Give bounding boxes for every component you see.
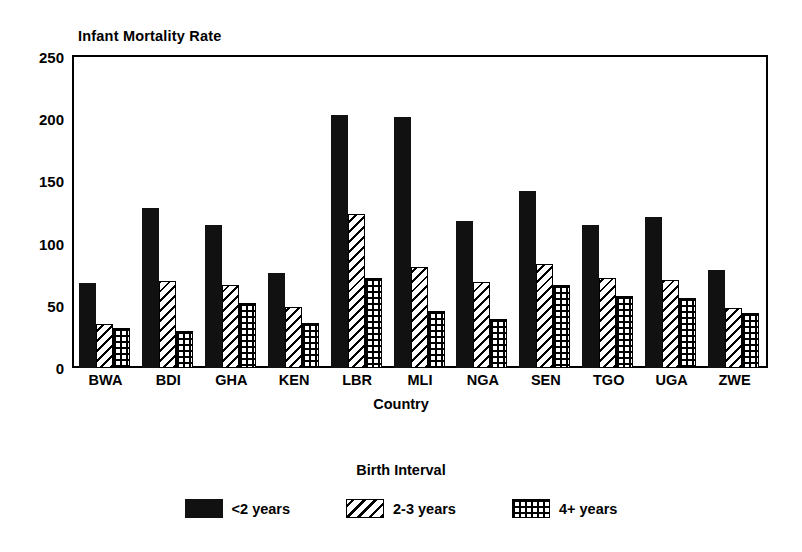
legend-title: Birth Interval <box>0 462 802 478</box>
bar <box>708 270 725 368</box>
bars-layer <box>74 57 766 368</box>
x-axis-tick-label: KEN <box>279 372 310 388</box>
bar <box>679 298 696 368</box>
legend-item-2-3-years[interactable]: 2-3 years <box>346 499 456 518</box>
bar <box>79 283 96 368</box>
bar-group <box>519 57 576 368</box>
bar <box>428 311 445 368</box>
legend-item-label: <2 years <box>232 501 290 517</box>
x-axis-label: Country <box>0 396 802 412</box>
bar <box>411 267 428 368</box>
bar-group <box>394 57 451 368</box>
x-axis-tick-label: NGA <box>467 372 499 388</box>
bar <box>725 308 742 368</box>
y-axis-tick-label: 250 <box>39 49 64 66</box>
bar-group <box>708 57 765 368</box>
legend-item-4-plus-years[interactable]: 4+ years <box>512 499 617 518</box>
bar <box>113 328 130 368</box>
bar <box>553 285 570 368</box>
bar-group <box>268 57 325 368</box>
bar-group <box>645 57 702 368</box>
bar <box>599 278 616 368</box>
bar <box>348 214 365 368</box>
bar <box>302 323 319 368</box>
bar <box>536 264 553 368</box>
bar <box>365 278 382 368</box>
x-axis-tick-label: GHA <box>215 372 247 388</box>
x-axis-tick-label: SEN <box>531 372 561 388</box>
bar <box>285 307 302 368</box>
x-axis-tick-labels: BWABDIGHAKENLBRMLINGASENTGOUGAZWE <box>74 372 766 396</box>
bar-group <box>456 57 513 368</box>
x-axis-tick-label: UGA <box>656 372 688 388</box>
y-axis: 050100150200250 <box>0 40 72 380</box>
bar <box>473 282 490 368</box>
bar <box>331 115 348 368</box>
bar <box>582 225 599 368</box>
bar <box>645 217 662 368</box>
legend-item-label: 4+ years <box>559 501 617 517</box>
y-axis-tick-label: 50 <box>47 297 64 314</box>
bar <box>616 296 633 368</box>
bar <box>490 319 507 368</box>
bar-group <box>205 57 262 368</box>
x-axis-tick-label: MLI <box>408 372 433 388</box>
x-axis-tick-label: LBR <box>342 372 372 388</box>
infant-mortality-bar-chart: Infant Mortality Rate 050100150200250 BW… <box>0 0 802 552</box>
bar-group <box>582 57 639 368</box>
bar <box>222 285 239 368</box>
legend-items: <2 years 2-3 years 4+ years <box>0 499 802 518</box>
bar <box>742 313 759 368</box>
legend-item-under-2-years[interactable]: <2 years <box>185 499 290 518</box>
bar <box>519 191 536 368</box>
bar-group <box>331 57 388 368</box>
y-axis-tick-label: 200 <box>39 111 64 128</box>
x-axis-tick-label: TGO <box>593 372 624 388</box>
bar-group <box>142 57 199 368</box>
cross-grid-swatch-icon <box>512 499 550 518</box>
x-axis-tick-label: ZWE <box>718 372 750 388</box>
bar <box>394 117 411 368</box>
chart-title: Infant Mortality Rate <box>78 28 222 44</box>
x-axis-tick-label: BDI <box>156 372 181 388</box>
bar <box>142 208 159 368</box>
bar <box>176 331 193 368</box>
bar <box>456 221 473 368</box>
y-axis-tick-label: 150 <box>39 173 64 190</box>
legend: Birth Interval <2 years 2-3 years 4+ yea… <box>0 462 802 518</box>
solid-black-swatch-icon <box>185 499 223 518</box>
bar <box>96 324 113 368</box>
bar <box>268 273 285 368</box>
y-axis-tick-label: 100 <box>39 235 64 252</box>
bar <box>662 280 679 368</box>
x-axis-tick-label: BWA <box>89 372 123 388</box>
bar <box>239 303 256 368</box>
legend-item-label: 2-3 years <box>393 501 456 517</box>
bar-group <box>79 57 136 368</box>
bar <box>159 281 176 368</box>
diagonal-hatch-swatch-icon <box>346 499 384 518</box>
y-axis-tick-label: 0 <box>56 360 64 377</box>
bar <box>205 225 222 368</box>
